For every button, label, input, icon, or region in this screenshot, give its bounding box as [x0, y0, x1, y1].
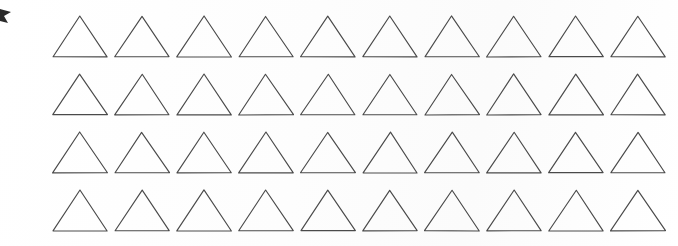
triangle-shape — [548, 189, 604, 232]
triangle-shape — [610, 15, 666, 58]
triangle-shape — [486, 15, 542, 58]
triangle-shape — [424, 15, 480, 58]
triangle-shape — [176, 189, 232, 232]
triangle-shape — [548, 15, 604, 58]
triangle-shape — [52, 131, 108, 174]
triangle-shape — [424, 189, 480, 232]
triangle-shape — [610, 73, 666, 116]
triangle-shape — [176, 131, 232, 174]
triangle-shape — [114, 73, 170, 116]
triangle-grid — [52, 15, 672, 246]
triangle-shape — [362, 73, 418, 116]
triangle-shape — [52, 73, 108, 116]
triangle-shape — [176, 73, 232, 116]
triangle-shape — [362, 131, 418, 174]
triangle-shape — [176, 15, 232, 58]
triangle-shape — [238, 15, 294, 58]
triangle-shape — [300, 15, 356, 58]
triangle-shape — [424, 73, 480, 116]
triangle-shape — [486, 73, 542, 116]
triangle-shape — [486, 189, 542, 232]
triangle-shape — [610, 131, 666, 174]
triangle-shape — [238, 189, 294, 232]
triangle-shape — [300, 131, 356, 174]
triangle-shape — [548, 73, 604, 116]
triangle-shape — [486, 131, 542, 174]
triangle-shape — [362, 15, 418, 58]
triangle-shape — [610, 189, 666, 232]
triangle-shape — [114, 131, 170, 174]
triangle-shape — [300, 189, 356, 232]
triangle-shape — [52, 189, 108, 232]
triangle-shape — [424, 131, 480, 174]
triangle-shape — [114, 189, 170, 232]
triangle-shape — [52, 15, 108, 58]
triangle-shape — [362, 189, 418, 232]
triangle-shape — [548, 131, 604, 174]
triangle-shape — [238, 131, 294, 174]
worksheet-page — [0, 0, 678, 246]
clipped-wedge-mark-icon — [0, 9, 13, 24]
triangle-shape — [114, 15, 170, 58]
triangle-shape — [300, 73, 356, 116]
triangle-shape — [238, 73, 294, 116]
